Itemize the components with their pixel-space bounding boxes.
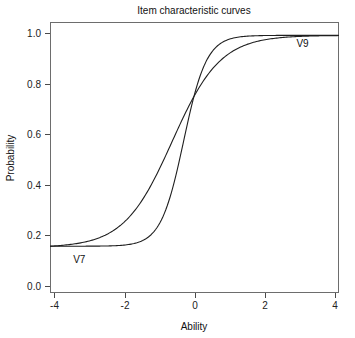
curve-label-v9: V9 [296,38,309,49]
y-tick-label: 0.4 [27,180,41,191]
x-axis-title: Ability [181,321,208,332]
curve-label-v7: V7 [73,254,86,265]
x-tick-label: -2 [121,300,130,311]
x-axis-ticks [55,293,336,298]
x-tick-label: -4 [50,300,59,311]
chart-title: Item characteristic curves [137,5,250,16]
curve-v9 [51,36,339,247]
y-tick-label: 1.0 [27,28,41,39]
y-tick-labels: 1.0 0.8 0.6 0.4 0.2 0.0 [27,28,41,292]
x-tick-label: 2 [262,300,268,311]
y-tick-label: 0.8 [27,79,41,90]
y-tick-label: 0.2 [27,230,41,241]
chart-page: 1.0 0.8 0.6 0.4 0.2 0.0 -4 -2 0 2 4 Item… [0,0,355,338]
y-axis-ticks [45,34,50,287]
x-tick-labels: -4 -2 0 2 4 [50,300,338,311]
item-characteristic-curves-chart: 1.0 0.8 0.6 0.4 0.2 0.0 -4 -2 0 2 4 Item… [0,0,355,338]
y-tick-label: 0.6 [27,129,41,140]
plot-frame [51,23,339,293]
x-tick-label: 4 [332,300,338,311]
x-tick-label: 0 [192,300,198,311]
y-axis-title: Probability [5,135,16,182]
curve-v7 [51,35,339,246]
y-tick-label: 0.0 [27,281,41,292]
